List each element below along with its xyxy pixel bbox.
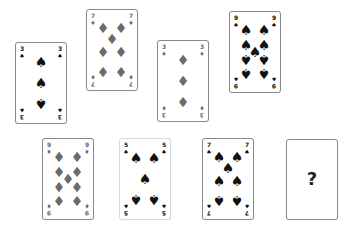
spade-icon: ♠: [56, 107, 64, 113]
card-rank: 9: [232, 83, 240, 89]
card-rank: 3: [56, 114, 64, 120]
playing-card-3-of-diamonds[interactable]: 3♦3♦3♦3♦♦♦♦: [157, 40, 209, 122]
diamond-icon: ♦: [127, 20, 135, 26]
card-corner-index: 9♦: [83, 142, 91, 155]
diamond-icon: ♦: [160, 105, 168, 111]
spade-pip-icon: ♠: [239, 23, 253, 37]
playing-card-9-of-diamonds[interactable]: 9♦9♦9♦9♦♦♦♦♦♦♦♦♦♦: [42, 138, 94, 220]
card-corner-index: 5♠: [160, 142, 168, 155]
card-corner-index: 3♠: [18, 107, 26, 120]
diamond-icon: ♦: [83, 203, 91, 209]
diamond-icon: ♦: [160, 51, 168, 57]
diamond-pip-icon: ♦: [114, 65, 128, 79]
spade-pip-icon: ♠: [212, 174, 226, 188]
spade-icon: ♠: [243, 149, 251, 155]
card-corner-index: 3♠: [56, 107, 64, 120]
card-rank: 3: [198, 112, 206, 118]
spade-pip-icon: ♠: [138, 172, 152, 186]
diamond-pip-icon: ♦: [70, 150, 84, 164]
card-corner-index: 7♦: [127, 74, 135, 87]
card-corner-index: 3♠: [18, 46, 26, 59]
spade-icon: ♠: [56, 53, 64, 59]
spade-pip-icon: ♠: [34, 76, 48, 90]
spade-icon: ♠: [270, 22, 278, 28]
spade-icon: ♠: [18, 107, 26, 113]
card-rank: 7: [89, 81, 97, 87]
card-corner-index: 9♦: [83, 203, 91, 216]
unknown-card[interactable]: ?: [286, 139, 338, 220]
spade-pip-icon: ♠: [257, 53, 271, 67]
card-corner-index: 7♦: [127, 13, 135, 26]
diamond-pip-icon: ♦: [176, 95, 190, 109]
card-rank: 7: [243, 210, 251, 216]
playing-card-3-of-spades[interactable]: 3♠3♠3♠3♠♠♠♠: [15, 42, 67, 124]
diamond-pip-icon: ♦: [52, 180, 66, 194]
card-rank: 5: [160, 210, 168, 216]
diamond-pip-icon: ♦: [70, 180, 84, 194]
diamond-pip-icon: ♦: [114, 45, 128, 59]
diamond-pip-icon: ♦: [176, 53, 190, 67]
spade-pip-icon: ♠: [129, 193, 143, 207]
spade-icon: ♠: [160, 203, 168, 209]
spade-pip-icon: ♠: [239, 53, 253, 67]
question-mark: ?: [287, 168, 337, 189]
card-corner-index: 5♠: [160, 203, 168, 216]
card-rank: 3: [18, 114, 26, 120]
spade-pip-icon: ♠: [257, 67, 271, 81]
spade-pip-icon: ♠: [230, 174, 244, 188]
card-corner-index: 7♠: [243, 142, 251, 155]
diamond-pip-icon: ♦: [70, 194, 84, 208]
card-corner-index: 9♠: [270, 76, 278, 89]
card-corner-index: 3♦: [160, 105, 168, 118]
card-corner-index: 3♦: [198, 105, 206, 118]
card-rank: 7: [127, 81, 135, 87]
card-corner-index: 3♦: [198, 44, 206, 57]
card-rank: 7: [205, 210, 213, 216]
spade-pip-icon: ♠: [129, 151, 143, 165]
diamond-pip-icon: ♦: [96, 45, 110, 59]
spade-icon: ♠: [243, 203, 251, 209]
spade-pip-icon: ♠: [34, 97, 48, 111]
card-corner-index: 7♠: [243, 203, 251, 216]
card-rank: 5: [122, 210, 130, 216]
spade-pip-icon: ♠: [34, 55, 48, 69]
spade-pip-icon: ♠: [147, 193, 161, 207]
card-corner-index: 9♠: [270, 15, 278, 28]
spade-pip-icon: ♠: [212, 194, 226, 208]
playing-card-7-of-diamonds[interactable]: 7♦7♦7♦7♦♦♦♦♦♦♦♦: [86, 9, 138, 91]
spade-icon: ♠: [160, 149, 168, 155]
card-rank: 3: [160, 112, 168, 118]
spade-pip-icon: ♠: [230, 194, 244, 208]
spade-pip-icon: ♠: [257, 23, 271, 37]
card-rank: 9: [83, 210, 91, 216]
diamond-pip-icon: ♦: [52, 150, 66, 164]
diamond-icon: ♦: [198, 105, 206, 111]
card-corner-index: 3♦: [160, 44, 168, 57]
spade-icon: ♠: [18, 53, 26, 59]
diamond-icon: ♦: [198, 51, 206, 57]
playing-card-9-of-spades[interactable]: 9♠9♠9♠9♠♠♠♠♠♠♠♠♠♠: [229, 11, 281, 93]
diamond-pip-icon: ♦: [52, 194, 66, 208]
diamond-icon: ♦: [83, 149, 91, 155]
playing-card-7-of-spades[interactable]: 7♠7♠7♠7♠♠♠♠♠♠♠♠: [202, 138, 254, 220]
diamond-pip-icon: ♦: [176, 74, 190, 88]
card-rank: 9: [270, 83, 278, 89]
card-corner-index: 3♠: [56, 46, 64, 59]
card-rank: 9: [45, 210, 53, 216]
spade-icon: ♠: [270, 76, 278, 82]
diamond-pip-icon: ♦: [96, 65, 110, 79]
playing-card-5-of-spades[interactable]: 5♠5♠5♠5♠♠♠♠♠♠: [119, 138, 171, 220]
spade-pip-icon: ♠: [239, 67, 253, 81]
spade-pip-icon: ♠: [147, 151, 161, 165]
diamond-icon: ♦: [127, 74, 135, 80]
